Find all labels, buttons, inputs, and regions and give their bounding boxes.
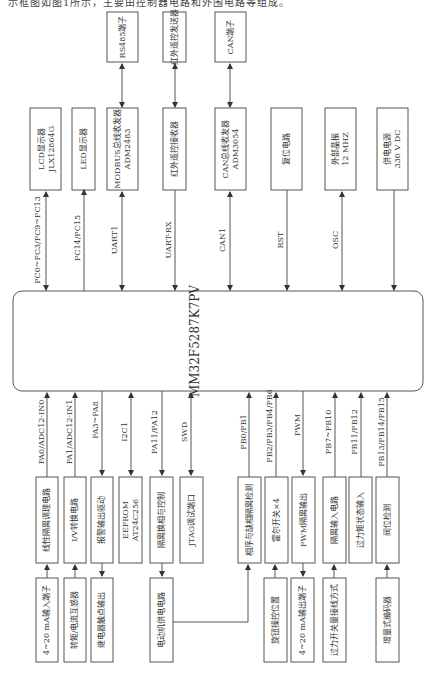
box-oscillator: 外部晶振 12 MHZ bbox=[325, 108, 356, 190]
block-diagram: MM32F5287K7PV RS485端子 红外遥控发送器 CAN端子 LCD显… bbox=[0, 0, 436, 678]
box-label: 继电器触点输出 bbox=[96, 592, 106, 648]
box-can-port: CAN端子 bbox=[215, 12, 246, 62]
box-label: 4~20 mA输入端子 bbox=[41, 585, 51, 655]
box-label: 隔离换相与控制 bbox=[156, 492, 166, 548]
box-pwm-isolation: PWM隔离输出 bbox=[292, 477, 315, 563]
box-label: JTAG调试端口 bbox=[186, 494, 196, 547]
signal-label: OSC bbox=[331, 231, 340, 249]
box-linear-isolation: 线性隔离调理电路 bbox=[36, 477, 58, 563]
box-can-transceiver: CAN总线收发器 ADM3054 bbox=[215, 108, 246, 190]
box-label: ADM2483 bbox=[123, 129, 132, 171]
box-valve-position: 阀位检测 bbox=[376, 477, 399, 563]
box-label: 报警输出驱动 bbox=[96, 496, 106, 544]
box-reset: 复位电路 bbox=[271, 108, 302, 190]
box-label: RS485端子 bbox=[117, 16, 127, 59]
box-lcd: LCD显示器 JLX12864G bbox=[30, 108, 61, 190]
box-label: LCD显示器 bbox=[37, 128, 46, 170]
signal-label: PA11/PA12 bbox=[150, 410, 159, 454]
box-label: CAN端子 bbox=[225, 20, 235, 55]
box-label: JLX12864G bbox=[47, 126, 56, 173]
box-ir-transmitter: 红外遥控发送器 bbox=[163, 9, 186, 65]
box-label: ADM3054 bbox=[231, 129, 240, 171]
box-torque-sensor: 转矩/电流互感器 bbox=[64, 578, 86, 662]
box-hall-switch: 霍尔开关×4 bbox=[265, 477, 288, 563]
signal-label: PWM bbox=[293, 414, 302, 436]
box-knob-position: 旋钮操控位置 bbox=[264, 578, 287, 662]
box-label: 过力矩状态输入 bbox=[355, 492, 365, 548]
box-alarm-driver: 报警输出驱动 bbox=[91, 477, 113, 563]
box-label: AT24C256 bbox=[131, 499, 140, 542]
box-label: I/V转换电路 bbox=[69, 498, 79, 542]
box-label: 供电电源 bbox=[382, 133, 392, 165]
box-label: PWM隔离输出 bbox=[298, 493, 308, 547]
box-led: LED显示器 bbox=[72, 108, 95, 190]
box-ma-output: 4~20 mA输出端子 bbox=[291, 578, 314, 662]
box-torque-switch: 过力开关量接线方式 bbox=[323, 578, 346, 662]
box-label: 330 V DC bbox=[393, 130, 402, 169]
signal-label: PC14/PC15 bbox=[73, 215, 82, 261]
box-label: EEPROM bbox=[121, 501, 130, 539]
box-jtag: JTAG调试端口 bbox=[180, 477, 203, 563]
signal-label: PA3~PA8 bbox=[91, 401, 100, 439]
box-label: 相序与缺相隔离检测 bbox=[244, 484, 254, 556]
box-label: 霍尔开关×4 bbox=[271, 498, 281, 542]
signal-label: UART1 bbox=[110, 226, 119, 255]
signal-label: PB13/PB14/PB15 bbox=[377, 397, 386, 467]
signal-label: UART-RX bbox=[164, 221, 173, 258]
signal-label: I2C1 bbox=[120, 422, 129, 441]
box-ma-input: 4~20 mA输入端子 bbox=[36, 578, 58, 662]
box-label: 红外遥控接收器 bbox=[169, 121, 179, 177]
box-modbus: MODBUS总线收发器 ADM2483 bbox=[107, 108, 138, 190]
signal-label: PA0/ADC12-IN0 bbox=[37, 400, 46, 465]
signal-label: CAN1 bbox=[218, 228, 227, 252]
box-label: 旋钮操控位置 bbox=[270, 596, 280, 644]
box-label: 12 MHZ bbox=[341, 132, 350, 166]
signal-label: PA1/ADC12-IN1 bbox=[65, 400, 74, 465]
box-label: 增量式编码器 bbox=[382, 596, 392, 644]
box-isolated-input: 隔离输入电路 bbox=[323, 477, 346, 563]
signal-label: SWD bbox=[180, 422, 189, 442]
mcu-label: MM32F5287K7PV bbox=[188, 285, 202, 397]
box-label: 阀位检测 bbox=[382, 504, 392, 536]
signal-label: PB11/PB12 bbox=[350, 409, 359, 455]
box-rs485: RS485端子 bbox=[107, 12, 138, 62]
mcu-block: MM32F5287K7PV bbox=[13, 285, 423, 397]
box-label: 复位电路 bbox=[281, 133, 291, 165]
signal-label: PC0~PC3/PC9~PC13 bbox=[33, 196, 42, 284]
box-torque-state: 过力矩状态输入 bbox=[349, 477, 372, 563]
box-label: CAN总线收发器 bbox=[220, 120, 230, 179]
box-label: 隔离输入电路 bbox=[329, 496, 339, 544]
box-relay-output: 继电器触点输出 bbox=[91, 578, 113, 662]
box-label: 线性隔离调理电路 bbox=[41, 488, 51, 552]
box-eeprom: EEPROM AT24C256 bbox=[119, 477, 142, 563]
box-label: 红外遥控发送器 bbox=[169, 9, 179, 65]
box-label: MODBUS总线收发器 bbox=[112, 109, 122, 188]
box-encoder: 增量式编码器 bbox=[376, 578, 399, 662]
signal-label: RST bbox=[276, 231, 285, 249]
box-label: LED显示器 bbox=[79, 128, 88, 170]
box-iv-converter: I/V转换电路 bbox=[64, 477, 86, 563]
box-label: 4~20 mA输出端子 bbox=[297, 585, 307, 655]
box-isolation-phase-control: 隔离换相与控制 bbox=[150, 477, 173, 563]
box-motor-power: 电动机供电电路 bbox=[150, 578, 173, 662]
box-label: 外部晶振 bbox=[330, 133, 340, 165]
box-label: 电动机供电电路 bbox=[156, 592, 166, 648]
box-label: 转矩/电流互感器 bbox=[69, 591, 79, 650]
box-ir-receiver: 红外遥控接收器 bbox=[163, 108, 186, 190]
box-power-supply: 供电电源 330 V DC bbox=[377, 108, 408, 190]
box-label: 过力开关量接线方式 bbox=[329, 584, 339, 656]
signal-label: PB7~PB10 bbox=[324, 410, 333, 455]
box-phase-detect: 相序与缺相隔离检测 bbox=[238, 477, 261, 563]
signal-label: PB0/PB1 bbox=[239, 414, 248, 449]
signal-label: PB2/PB3/PB4/PB6 bbox=[265, 389, 274, 463]
